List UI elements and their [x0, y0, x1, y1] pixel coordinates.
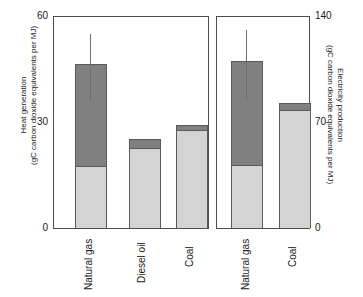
left-ytick-0: 0	[24, 223, 48, 233]
xtick-left-diesel-oil: Diesel oil	[137, 242, 147, 283]
right-ytick-140: 140	[315, 11, 332, 21]
left-ytick-30: 30	[24, 117, 48, 127]
bar-left-coal	[176, 125, 208, 228]
xtick-left-natural-gas: Natural gas	[84, 239, 94, 290]
errorbar-right-natural-gas	[246, 30, 247, 100]
left-axis-title-line2: (gC carbon dioxide equivalents per MJ)	[29, 45, 39, 165]
left-axis-title: Heat generation (gC carbon dioxide equiv…	[19, 45, 39, 165]
plot-area-right	[217, 17, 309, 228]
panel-heat-generation	[53, 16, 209, 229]
right-axis-title-line1: Electricity production	[335, 45, 345, 165]
bar-right-natural-gas	[231, 61, 263, 228]
bar-segment-lower	[280, 110, 310, 228]
xtick-right-natural-gas: Natural gas	[241, 239, 251, 290]
plot-area-left	[54, 17, 208, 228]
bar-segment-lower	[232, 165, 262, 228]
bar-segment-upper	[232, 62, 262, 166]
right-ytick-0: 0	[315, 223, 321, 233]
right-axis-title-line2: (gC carbon dioxide equivalents per MJ)	[325, 45, 335, 165]
bar-segment-upper	[76, 65, 106, 167]
bar-left-diesel-oil	[129, 139, 161, 228]
bar-right-coal	[279, 103, 311, 228]
left-axis-title-line1: Heat generation	[19, 45, 29, 165]
xtick-left-coal: Coal	[185, 246, 195, 267]
right-axis-title: Electricity production (gC carbon dioxid…	[325, 45, 345, 165]
panel-electricity-production	[216, 16, 310, 229]
bar-segment-lower	[76, 166, 106, 228]
left-ytick-60: 60	[24, 11, 48, 21]
bar-left-natural-gas	[75, 64, 107, 228]
bar-segment-lower	[130, 148, 160, 228]
figure-root: Heat generation (gC carbon dioxide equiv…	[0, 0, 363, 297]
bar-segment-lower	[177, 130, 207, 228]
errorbar-left-natural-gas	[90, 34, 91, 101]
right-ytick-70: 70	[315, 117, 326, 127]
xtick-right-coal: Coal	[288, 246, 298, 267]
